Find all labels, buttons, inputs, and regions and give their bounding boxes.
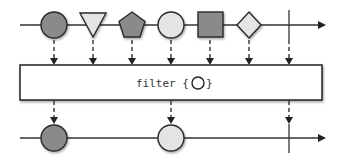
operator-label-close: } bbox=[206, 77, 213, 90]
filter-operator-box: filter { } bbox=[20, 65, 322, 100]
input-connector-arrows bbox=[50, 58, 293, 65]
input-arrow-icon bbox=[318, 21, 326, 29]
marble-diamond-light-icon bbox=[237, 12, 261, 38]
output-connector-arrows bbox=[50, 117, 293, 124]
marble-diagram: filter { } bbox=[0, 0, 339, 164]
marble-circle-dark-icon bbox=[41, 12, 67, 38]
operator-label: filter { bbox=[136, 77, 189, 90]
output-circle-dark-icon bbox=[41, 125, 67, 151]
output-connectors bbox=[54, 101, 289, 117]
input-connectors bbox=[54, 40, 289, 58]
marble-square-dark-icon bbox=[198, 12, 223, 37]
output-arrow-icon bbox=[318, 134, 326, 142]
marble-circle-light-icon bbox=[158, 12, 184, 38]
marble-pentagon-dark-icon bbox=[119, 12, 145, 37]
output-circle-light-icon bbox=[158, 125, 184, 151]
